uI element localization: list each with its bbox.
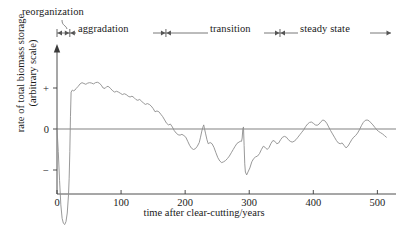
y-tick-label: −	[43, 165, 49, 176]
y-axis-arrowhead	[54, 44, 60, 53]
y-axis-title-line1: rate of total biomass storage	[15, 0, 27, 148]
x-axis-title: time after clear-cutting/years	[0, 207, 408, 218]
figure-root: reorganization aggradation transition st…	[0, 0, 408, 232]
biomass-rate-curve	[57, 82, 386, 224]
y-axis-title-line2: (arbitrary scale)	[27, 0, 39, 148]
y-axis-title: rate of total biomass storage (arbitrary…	[15, 0, 41, 148]
plot-area: 0100200300400500+0−	[0, 0, 408, 232]
y-tick-label: 0	[44, 124, 49, 135]
y-tick-label: +	[43, 83, 49, 94]
